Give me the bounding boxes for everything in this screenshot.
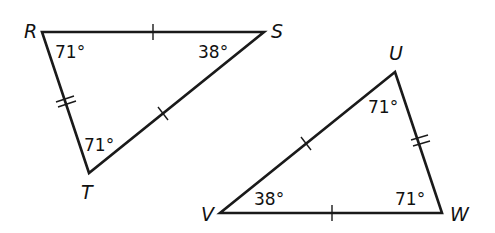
tick-mark-uw-2 bbox=[413, 141, 430, 146]
angle-label-v: 38° bbox=[254, 189, 284, 209]
angle-label-u: 71° bbox=[368, 97, 398, 117]
vertex-label-u: U bbox=[389, 42, 403, 64]
angle-label-t: 71° bbox=[84, 135, 114, 155]
vertex-label-t: T bbox=[81, 181, 94, 203]
angle-label-s: 38° bbox=[198, 42, 228, 62]
angle-label-w: 71° bbox=[395, 189, 425, 209]
angle-label-r: 71° bbox=[55, 42, 85, 62]
vertex-label-v: V bbox=[201, 203, 216, 225]
triangle-rst: R S T 71° 38° 71° bbox=[24, 20, 283, 203]
vertex-label-s: S bbox=[271, 20, 283, 42]
triangle-uvw: U V W 71° 38° 71° bbox=[201, 42, 470, 225]
tick-mark-uw-1 bbox=[411, 135, 428, 140]
congruent-triangles-diagram: R S T 71° 38° 71° U V W 71° 38° 71° bbox=[0, 0, 495, 233]
vertex-label-r: R bbox=[24, 20, 37, 42]
vertex-label-w: W bbox=[450, 203, 470, 225]
